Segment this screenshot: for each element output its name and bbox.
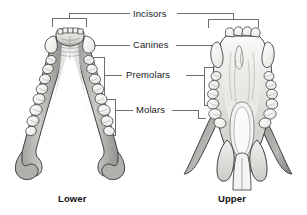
lower-right-canine — [83, 36, 95, 53]
upper-choanae-inner — [234, 107, 250, 155]
label-lower-view: Lower — [58, 194, 86, 204]
lower-left-mandible-body — [20, 38, 64, 176]
upper-right-bulla — [250, 140, 267, 181]
label-molars: Molars — [136, 105, 165, 115]
label-canines: Canines — [133, 40, 169, 50]
molars-leader-right — [172, 110, 206, 118]
label-incisors: Incisors — [133, 9, 167, 19]
label-upper-view: Upper — [218, 194, 246, 204]
upper-left-bulla — [217, 140, 234, 181]
label-premolars: Premolars — [126, 70, 170, 80]
lower-left-canine — [45, 36, 57, 53]
upper-jaw-figure — [184, 27, 292, 190]
anatomy-diagram: Incisors Canines Premolars Molars Lower … — [0, 0, 307, 215]
lower-jaw-figure — [15, 28, 124, 180]
upper-incisor-teeth — [225, 27, 260, 37]
lower-right-mandible-body — [76, 38, 120, 176]
incisors-bracket-right — [177, 13, 258, 28]
incisors-bracket-left — [52, 13, 130, 27]
lower-incisor-teeth — [58, 28, 83, 34]
